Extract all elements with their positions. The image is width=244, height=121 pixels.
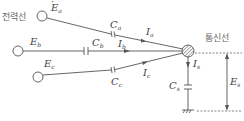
current-a-label: Ia <box>145 26 154 38</box>
arrow-up-icon <box>225 53 229 59</box>
source-c: Ec Cc Ic <box>33 53 183 88</box>
current-c-label: Ic <box>142 67 151 79</box>
current-a-arrow-icon <box>141 39 146 43</box>
capacitor-a-label: Ca <box>110 19 122 31</box>
induction-circuit-diagram: 전력선 Ea · Ca Ia Eb Cb Ib Ec Cc Ic <box>0 0 244 121</box>
current-s-arrow-icon <box>186 62 190 68</box>
capacitor-c-plate1 <box>111 67 112 73</box>
source-b: Eb Cb Ib <box>13 36 182 56</box>
source-c-label: Ec <box>43 58 55 70</box>
source-a: Ea · Ca Ia <box>37 0 183 49</box>
source-a-terminal-icon <box>37 11 47 21</box>
capacitor-a-plate1 <box>111 31 112 37</box>
capacitor-s-label: Cs <box>169 80 180 92</box>
source-c-terminal-icon <box>33 72 43 82</box>
arrow-down-icon <box>225 105 229 111</box>
source-b-label: Eb <box>29 36 41 48</box>
capacitor-c-plate2 <box>114 67 115 73</box>
ground-icon <box>182 110 194 113</box>
induced-voltage-label: Es <box>229 76 240 88</box>
current-c-arrow-icon <box>142 62 148 66</box>
power-line-label: 전력선 <box>2 11 26 22</box>
source-b-terminal-icon <box>13 46 23 56</box>
phasor-dot: · <box>51 0 54 7</box>
comm-line-label: 통신선 <box>205 33 229 43</box>
capacitor-b-label: Cb <box>92 37 104 49</box>
comm-line-node-icon <box>182 45 194 57</box>
current-b-label: Ib <box>117 38 126 50</box>
current-s-label: Is <box>192 58 200 70</box>
capacitor-a-plate2 <box>114 32 115 38</box>
capacitor-c-label: Cc <box>111 76 123 88</box>
